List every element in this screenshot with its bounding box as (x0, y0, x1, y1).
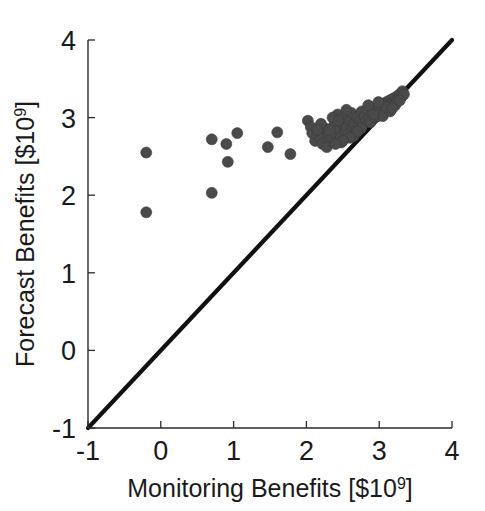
data-point-marker (272, 127, 283, 138)
data-point-marker (221, 138, 232, 149)
y-tick-label: 0 (61, 336, 76, 366)
data-point-marker (333, 115, 344, 126)
data-point-marker (324, 125, 335, 136)
data-point-marker (312, 125, 323, 136)
data-point-marker (285, 149, 296, 160)
y-tick-label: 4 (61, 26, 76, 56)
data-point-marker (330, 138, 341, 149)
y-tick-label: 2 (61, 181, 76, 211)
x-tick-label: 1 (226, 436, 241, 466)
data-point-marker (394, 95, 405, 106)
data-point-markers (141, 86, 410, 218)
data-point-marker (373, 97, 384, 108)
data-point-marker (206, 187, 217, 198)
scatter-plot-figure: -101234 -101234 Monitoring Benefits [$10… (0, 0, 485, 511)
x-tick-label: 3 (372, 436, 387, 466)
y-tick-label: 1 (61, 259, 76, 289)
data-point-marker (262, 142, 273, 153)
plot-canvas: -101234 -101234 Monitoring Benefits [$10… (0, 0, 485, 511)
data-point-marker (141, 147, 152, 158)
x-axis-title-group: Monitoring Benefits [$109] (127, 474, 412, 502)
x-tick-label: 4 (444, 436, 459, 466)
x-axis-title: Monitoring Benefits [$109] (127, 474, 412, 502)
x-tick-label: 0 (153, 436, 168, 466)
y-tick-label: 3 (61, 104, 76, 134)
y-tick-label: -1 (52, 414, 76, 444)
data-point-marker (206, 134, 217, 145)
data-point-marker (368, 109, 379, 120)
data-point-marker (141, 207, 152, 218)
x-tick-label: -1 (76, 436, 100, 466)
data-point-marker (341, 104, 352, 115)
data-point-marker (232, 128, 243, 139)
data-point-marker (222, 156, 233, 167)
y-axis-title: Forecast Benefits [$109] (11, 101, 39, 367)
y-axis-title-group: Forecast Benefits [$109] (11, 101, 39, 367)
x-tick-label: 2 (299, 436, 314, 466)
